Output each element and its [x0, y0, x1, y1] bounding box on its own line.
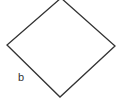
- side-label-b: b: [18, 71, 24, 83]
- diamond-diagram: b: [0, 0, 119, 98]
